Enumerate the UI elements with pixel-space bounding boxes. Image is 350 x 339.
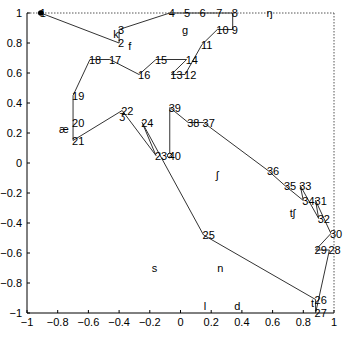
phoneme-label: ŋ [266,7,272,19]
y-tick-label: 0 [16,157,22,169]
point-label: 23 [155,150,167,162]
point-label: 11 [201,39,212,51]
trajectory-segment [142,123,203,236]
phoneme-label: tʃ [290,207,297,219]
y-tick-label: 1 [16,7,22,19]
point-label: 21 [72,135,84,147]
point-label: 34 [302,195,314,207]
point-label: 3 [118,24,124,36]
x-tick-label: 0.4 [234,316,249,328]
point-label: 7 [216,7,222,19]
point-label: 31 [315,195,327,207]
trajectory-series [38,10,331,313]
y-tick-label: 0.2 [7,127,22,139]
x-tick-label: 0.2 [204,316,219,328]
y-tick-label: −0.4 [0,217,22,229]
point-label: 6 [199,7,205,19]
x-tick-label: 1 [331,316,337,328]
y-axis-ticks: −1−0.8−0.6−0.4−0.200.20.40.60.81 [0,7,30,319]
trajectory-segment [41,13,119,43]
phoneme-label: t [311,297,314,309]
point-labels: 1234567891011121314151617181920212223242… [40,7,342,319]
point-label: 17 [109,54,121,66]
point-label: 32 [318,213,330,225]
phoneme-label: d [234,300,240,312]
phoneme-label: f [128,40,132,52]
phoneme-label: ʃ [215,169,220,181]
trajectory-segment [119,13,170,30]
point-label: 1 [40,7,46,19]
y-tick-label: 0.4 [7,97,22,109]
x-tick-label: −0.4 [108,316,130,328]
x-tick-label: −0.6 [78,316,100,328]
point-label: 5 [184,7,190,19]
trajectory-segment [204,123,268,171]
phoneme-trajectory-chart: −1−0.8−0.6−0.4−0.200.20.40.60.81 −1−0.8−… [0,0,350,339]
point-label: 30 [330,228,342,240]
point-label: 13 [170,69,182,81]
point-label: 9 [232,24,238,36]
point-label: 40 [169,150,181,162]
point-label: 14 [186,54,198,66]
point-label: 8 [232,7,238,19]
point-label: 10 [216,24,228,36]
point-label: 38 [187,117,199,129]
point-label: 24 [141,117,153,129]
point-label: 26 [315,294,327,306]
point-label: 33 [299,180,311,192]
y-tick-label: −0.6 [0,247,22,259]
phoneme-label: æ [59,123,69,135]
phoneme-label: l [204,300,206,312]
point-label: 36 [267,165,279,177]
x-tick-label: −0.8 [47,316,69,328]
point-label: 4 [169,7,175,19]
x-tick-label: 0.6 [265,316,280,328]
point-label: 25 [203,229,215,241]
phoneme-label: g [182,24,188,36]
phoneme-label: n [217,262,223,274]
point-label: 2 [118,37,124,49]
phoneme-label: s [152,262,158,274]
phoneme-label: k [113,28,119,40]
y-tick-label: 0.6 [7,67,22,79]
point-label: 12 [184,69,196,81]
point-label: 35 [284,180,296,192]
point-label: 37 [203,117,215,129]
phoneme-label: ʒ [119,109,125,121]
point-label: 29 [315,244,327,256]
y-tick-label: −1 [9,307,22,319]
point-label: 27 [315,307,327,319]
x-tick-label: −1 [21,316,34,328]
point-label: 20 [72,117,84,129]
x-tick-label: −0.2 [139,316,161,328]
x-tick-label: 0.8 [296,316,311,328]
point-label: 19 [72,90,84,102]
point-label: 28 [328,244,340,256]
point-label: 39 [169,102,181,114]
x-tick-label: 0 [177,316,183,328]
y-tick-label: 0.8 [7,37,22,49]
axes [27,13,334,313]
point-label: 18 [89,54,101,66]
y-tick-label: −0.2 [0,187,22,199]
point-label: 16 [138,69,150,81]
point-label: 15 [155,54,167,66]
y-tick-label: −0.8 [0,277,22,289]
